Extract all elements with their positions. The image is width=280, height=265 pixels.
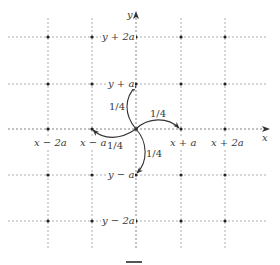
arrow-right bbox=[136, 120, 179, 129]
x-tick-label: x + a bbox=[169, 138, 197, 148]
probability-left: 1/4 bbox=[107, 141, 123, 151]
arrow-up bbox=[127, 86, 136, 129]
x-tick-label: x − a bbox=[79, 138, 107, 148]
y-tick-label: y + a bbox=[107, 79, 135, 89]
x-tick-label: x + 2a bbox=[210, 138, 245, 148]
axes bbox=[8, 18, 264, 248]
probability-up: 1/4 bbox=[109, 102, 125, 112]
x-tick-label: x − 2a bbox=[33, 138, 68, 148]
lattice-diagram bbox=[0, 0, 280, 265]
grid-vertical-lines bbox=[48, 18, 225, 248]
y-tick-label: y − 2a bbox=[101, 216, 136, 226]
x-axis-label: x bbox=[262, 133, 268, 143]
y-axis-label: y bbox=[127, 10, 133, 20]
probability-down: 1/4 bbox=[146, 149, 162, 159]
probability-right: 1/4 bbox=[150, 109, 166, 119]
caption-fragment bbox=[126, 261, 142, 263]
arrow-down bbox=[136, 129, 145, 173]
y-axis-arrow-icon bbox=[133, 11, 139, 19]
y-tick-label: y + 2a bbox=[101, 32, 136, 42]
y-tick-label: y − a bbox=[107, 170, 135, 180]
